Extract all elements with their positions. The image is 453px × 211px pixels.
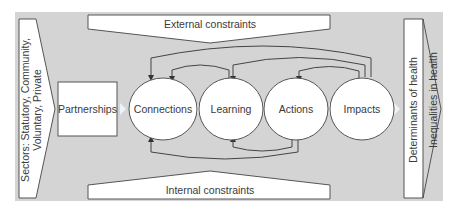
external-constraints-label: External constraints	[164, 18, 256, 30]
partnership-model-diagram: Sectors: Statutory, Community, Voluntary…	[0, 0, 453, 211]
node-learning: Learning	[199, 78, 263, 140]
node-actions-label: Actions	[279, 103, 313, 115]
node-connections: Connections	[129, 78, 197, 140]
sectors-line2: Voluntary, Private	[31, 69, 43, 151]
partnerships-box: Partnerships	[58, 82, 117, 136]
partnerships-label: Partnerships	[58, 103, 117, 115]
internal-constraints-label: Internal constraints	[166, 184, 255, 196]
node-actions: Actions	[264, 78, 328, 140]
node-impacts-label: Impacts	[344, 103, 381, 115]
node-impacts: Impacts	[330, 78, 394, 140]
determinants-label: Determinants of health	[407, 57, 419, 163]
node-learning-label: Learning	[211, 103, 252, 115]
sectors-line1: Sectors: Statutory, Community,	[19, 38, 31, 182]
node-connections-label: Connections	[134, 103, 192, 115]
inequalities-label: Inequalities in health	[427, 52, 439, 148]
